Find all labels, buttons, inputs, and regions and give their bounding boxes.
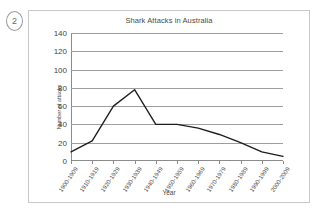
y-tick-label: 0 (63, 157, 67, 166)
x-tick-mark (177, 161, 178, 164)
x-tick-mark (92, 161, 93, 164)
series-path (71, 90, 283, 157)
x-tick-mark (283, 161, 284, 164)
x-tick-mark (198, 161, 199, 164)
data-line-series (71, 33, 283, 161)
x-tick-mark (71, 161, 72, 164)
y-tick-label: 20 (58, 138, 67, 147)
x-axis-title: Year (29, 189, 309, 196)
screenshot-root: 2 Shark Attacks in Australia Number of a… (0, 0, 336, 213)
y-tick-label: 120 (54, 47, 67, 56)
x-tick-mark (113, 161, 114, 164)
y-tick-label: 60 (58, 102, 67, 111)
plot-area: 020406080100120140 1900-19091910-1919192… (71, 33, 283, 161)
y-tick-label: 100 (54, 65, 67, 74)
question-number-badge: 2 (6, 11, 23, 31)
y-tick-label: 140 (54, 29, 67, 38)
x-tick-mark (241, 161, 242, 164)
x-tick-mark (262, 161, 263, 164)
x-tick-mark (219, 161, 220, 164)
x-tick-mark (156, 161, 157, 164)
y-tick-label: 80 (58, 83, 67, 92)
chart-panel: Shark Attacks in Australia Number of att… (28, 10, 310, 203)
x-tick-mark (135, 161, 136, 164)
y-tick-label: 40 (58, 120, 67, 129)
chart-title: Shark Attacks in Australia (29, 16, 309, 25)
